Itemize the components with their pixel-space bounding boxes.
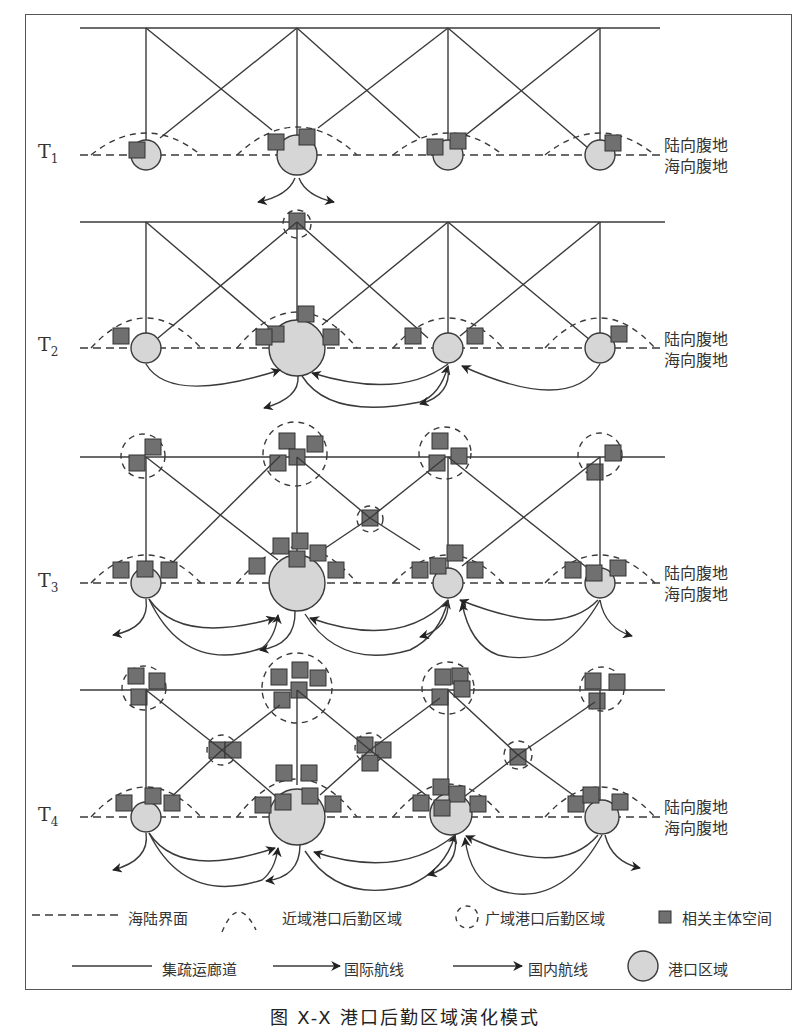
side-labels-t3: 陆向腹地 海向腹地 — [664, 563, 728, 605]
collection-corridor — [460, 755, 518, 800]
international-route-arrow — [428, 835, 456, 875]
collection-corridor — [146, 28, 272, 130]
collection-corridor — [462, 28, 600, 138]
related-entity-space — [161, 562, 177, 578]
related-entity-space — [413, 795, 429, 811]
related-entity-space — [113, 328, 129, 344]
related-entity-space — [255, 797, 271, 813]
international-route-arrow — [258, 178, 295, 202]
collection-corridor — [160, 28, 297, 138]
related-entity-space — [325, 796, 341, 812]
legend-port-area-swatch — [628, 951, 658, 981]
legend-collection-corridor: 集疏运廊道 — [162, 958, 237, 979]
legend-related-entity-space: 相关主体空间 — [682, 907, 772, 928]
related-entity-space — [273, 538, 289, 554]
related-entity-space — [435, 669, 451, 685]
related-entity-space — [137, 561, 153, 577]
domestic-route-arrow — [149, 599, 278, 655]
stage-label-t1: T1 — [38, 140, 58, 166]
related-entity-space — [609, 674, 625, 690]
domestic-route-arrow — [149, 833, 275, 861]
collection-corridor — [297, 222, 428, 338]
figure-caption: 图 X-X 港口后勤区域演化模式 — [0, 1003, 810, 1029]
collection-corridor — [158, 222, 297, 338]
related-entity-space — [430, 558, 446, 574]
related-entity-space — [605, 445, 621, 461]
related-entity-space — [610, 560, 626, 576]
related-entity-space — [565, 562, 581, 578]
sea-hinterland-label: 海向腹地 — [664, 584, 728, 605]
legend-domestic-route: 国内航线 — [528, 958, 588, 979]
related-entity-space — [589, 693, 605, 709]
related-entity-space — [310, 670, 326, 686]
related-entity-space — [405, 328, 421, 344]
collection-corridor — [370, 518, 420, 550]
related-entity-space — [586, 565, 602, 581]
related-entity-space — [256, 329, 272, 345]
international-route-arrow — [420, 366, 448, 404]
sea-hinterland-label: 海向腹地 — [664, 350, 728, 371]
stage-label-t2: T2 — [38, 333, 58, 359]
collection-corridor — [146, 222, 270, 328]
domestic-route-arrow — [462, 364, 600, 390]
related-entity-space — [271, 669, 287, 685]
stage-label-t3: T3 — [38, 569, 58, 595]
collection-corridor — [146, 457, 278, 560]
land-hinterland-label: 陆向腹地 — [664, 563, 728, 584]
related-entity-space — [585, 673, 601, 689]
related-entity-space — [362, 755, 378, 771]
related-entity-space — [225, 742, 241, 758]
domestic-route-arrow — [302, 366, 448, 407]
collection-corridor — [370, 750, 432, 800]
related-entity-space — [289, 551, 305, 567]
international-route-arrow — [264, 376, 298, 408]
collection-corridor — [448, 222, 590, 340]
related-entity-space — [427, 139, 443, 155]
port-area — [131, 333, 161, 363]
related-entity-space — [611, 326, 627, 342]
collection-corridor — [222, 750, 280, 800]
related-entity-space — [129, 142, 145, 158]
port-area — [433, 333, 463, 363]
collection-corridor — [320, 750, 370, 795]
related-entity-space — [302, 788, 318, 804]
related-entity-space — [145, 439, 161, 455]
related-entity-space — [412, 562, 428, 578]
collection-corridor — [165, 456, 280, 570]
legend-sea-land-interface: 海陆界面 — [128, 907, 188, 928]
international-route-arrow — [113, 833, 146, 870]
collection-corridor — [462, 457, 600, 566]
side-labels-t4: 陆向腹地 海向腹地 — [664, 797, 728, 839]
related-entity-space — [310, 545, 326, 561]
related-entity-space — [299, 129, 315, 145]
collection-corridor — [448, 28, 588, 148]
related-entity-space — [470, 796, 486, 812]
collection-corridor — [146, 690, 222, 750]
legend-related-entity-space-swatch — [659, 911, 671, 923]
related-entity-space — [454, 681, 470, 697]
domestic-route-arrow — [466, 835, 598, 858]
collection-corridor — [518, 755, 580, 800]
collection-corridor — [297, 457, 370, 518]
related-entity-space — [447, 545, 463, 561]
collection-corridor — [322, 222, 448, 325]
related-entity-space — [467, 562, 483, 578]
domestic-route-arrow — [310, 600, 448, 630]
related-entity-space — [113, 562, 129, 578]
related-entity-space — [612, 794, 628, 810]
domestic-route-arrow — [146, 364, 280, 386]
related-entity-space — [449, 786, 465, 802]
sea-hinterland-label: 海向腹地 — [664, 818, 728, 839]
related-entity-space — [128, 668, 144, 684]
related-entity-space — [131, 689, 147, 705]
legend-wide-logistics-area-swatch — [456, 906, 478, 928]
collection-corridor — [448, 457, 590, 570]
related-entity-space — [433, 779, 449, 795]
legend-near-logistics-area-swatch — [222, 912, 256, 932]
related-entity-space — [323, 329, 339, 345]
collection-corridor — [370, 458, 445, 518]
side-labels-t1: 陆向腹地 海向腹地 — [664, 135, 728, 177]
related-entity-space — [275, 794, 291, 810]
related-entity-space — [328, 562, 344, 578]
related-entity-space — [292, 533, 308, 549]
